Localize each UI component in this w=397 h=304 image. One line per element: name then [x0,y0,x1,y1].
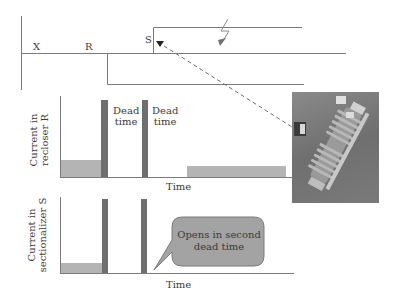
load-current-block [61,263,102,273]
node-label-x: X [33,42,40,53]
fault-lightning-icon [218,19,229,46]
recloser-x-axis-label: Time [166,182,191,193]
one-line-diagram [21,16,346,90]
dead-time-label-1: Dead time [113,106,139,127]
node-label-s: S [145,35,152,46]
fault-current-bar-1 [102,199,108,273]
diagram-root: X R S Current in recloser R Dead time De… [0,0,397,304]
fault-current-bar-2 [142,100,148,177]
lower-branch [108,54,305,85]
dead-time-label-2: Dead time [152,106,178,127]
sectionalizer-x-axis-label: Time [166,280,191,291]
sectionalizer-y-axis-label: Current in sectionalizer S [26,191,50,279]
callout-text: Opens in second dead time [174,229,264,253]
recloser-y-axis-label: Current in recloser R [28,104,52,176]
sectionalizer-photo [292,92,379,203]
sectionalizer-marker-icon [156,41,164,47]
pointer-dashed-line [164,46,292,127]
node-label-r: R [85,42,93,53]
load-current-block-2 [187,166,286,177]
load-current-block-1 [61,160,101,177]
fault-current-bar-2 [141,199,147,273]
sectionalizer-device-illustration [292,92,379,203]
fault-current-bar-1 [101,100,108,177]
